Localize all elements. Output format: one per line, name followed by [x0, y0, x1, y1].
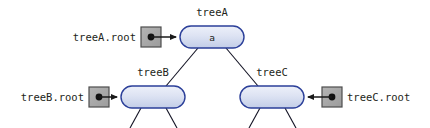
- node-treeB-shape: [121, 86, 185, 108]
- node-title-treeB: treeB: [137, 66, 169, 78]
- node-title-treeC: treeC: [256, 66, 288, 78]
- edge-treeA-to-treeC: [226, 48, 258, 86]
- node-treeC-shape: [240, 86, 304, 108]
- edge-treeC-child-right: [285, 108, 296, 128]
- pointer-treeC-root[interactable]: treeC.root: [308, 87, 410, 107]
- node-treeB[interactable]: [121, 86, 185, 108]
- diagram-canvas: treeA a treeB treeC treeA.root treeB.roo…: [0, 0, 430, 128]
- node-treeA[interactable]: a: [180, 26, 244, 48]
- edge-treeA-to-treeB: [166, 48, 198, 86]
- pointer-label-treeB-root: treeB.root: [21, 91, 84, 103]
- pointer-treeB-root[interactable]: treeB.root: [21, 87, 117, 107]
- pointer-treeA-root[interactable]: treeA.root: [73, 27, 176, 47]
- edge-treeB-child-right: [166, 108, 177, 128]
- pointer-label-treeA-root: treeA.root: [73, 31, 136, 43]
- tree-diagram-figure: treeA a treeB treeC treeA.root treeB.roo…: [0, 0, 430, 128]
- node-treeA-value: a: [209, 32, 215, 43]
- edge-treeC-child-left: [249, 108, 260, 128]
- edge-treeB-child-left: [130, 108, 141, 128]
- pointer-label-treeC-root: treeC.root: [347, 91, 410, 103]
- node-treeC[interactable]: [240, 86, 304, 108]
- node-title-treeA: treeA: [196, 6, 228, 18]
